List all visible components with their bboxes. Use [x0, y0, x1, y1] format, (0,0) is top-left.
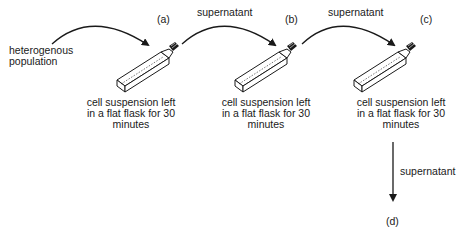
input-label-line: population	[9, 56, 73, 67]
transfer-arrow-b-c	[302, 26, 394, 45]
stage-d-id: (d)	[386, 216, 399, 227]
caption-line: minutes	[346, 119, 456, 130]
caption-line: minutes	[76, 119, 186, 130]
input-arrow	[52, 26, 148, 45]
stage-c-id: (c)	[420, 14, 432, 25]
stage-b-caption: cell suspension left in a flat flask for…	[211, 97, 321, 130]
stage-b-id: (b)	[285, 14, 298, 25]
caption-line: minutes	[211, 119, 321, 130]
stage-a-caption: cell suspension left in a flat flask for…	[76, 97, 186, 130]
transfer-label-c-d: supernatant	[400, 166, 455, 177]
stage-a-id: (a)	[157, 14, 170, 25]
stage-c-caption: cell suspension left in a flat flask for…	[346, 97, 456, 130]
transfer-label-b-c: supernatant	[328, 7, 383, 18]
flask-b-icon	[235, 42, 297, 92]
flask-a-icon	[117, 42, 179, 92]
flask-c-icon	[354, 42, 416, 92]
input-label: heterogenous population	[9, 45, 73, 67]
transfer-arrow-a-b	[182, 26, 275, 45]
transfer-label-a-b: supernatant	[197, 7, 252, 18]
